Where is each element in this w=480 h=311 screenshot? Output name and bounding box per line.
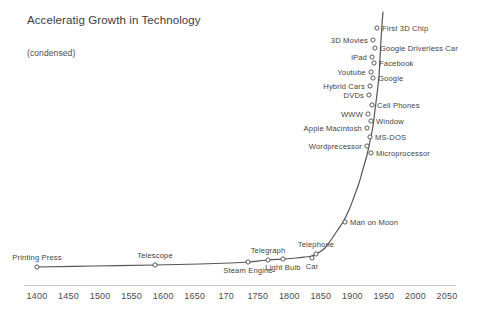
data-point-label: Wordprecessor [309,142,362,151]
data-point-marker[interactable] [314,252,318,256]
data-point-label: First 3D Chip [382,24,428,33]
data-point-label: Hybrid Cars [323,82,365,91]
data-point-label: WWW [341,110,363,119]
data-point-marker[interactable] [266,258,270,262]
x-axis-tick-label: 1550 [121,291,142,301]
data-point-marker[interactable] [371,76,375,80]
data-point-label: Google [378,74,403,83]
data-point-marker[interactable] [368,135,372,139]
x-axis-tick-label: 1600 [153,291,174,301]
data-point-label: Google Driverless Car [380,44,458,53]
data-point-marker[interactable] [366,112,370,116]
data-point-marker[interactable] [370,55,374,59]
x-axis-tick-label: 1400 [27,291,48,301]
x-axis-line [24,285,456,286]
x-axis-tick-label: 1900 [342,291,363,301]
data-point-label: Light Bulb [265,263,300,272]
data-point-marker[interactable] [368,84,372,88]
data-point-label: Car [306,262,319,271]
data-point-marker[interactable] [365,144,369,148]
data-point-marker[interactable] [371,38,375,42]
data-point-label: iPad [351,53,367,62]
data-point-label: 3D Movies [331,36,368,45]
x-axis-tick-label: 1750 [247,291,268,301]
data-point-marker[interactable] [369,70,373,74]
x-axis-tick-label: 1950 [373,291,394,301]
data-point-label: Apple Macintosh [304,124,362,133]
data-point-marker[interactable] [153,263,157,267]
data-point-label: Man on Moon [350,218,398,227]
x-axis-tick-label: 1850 [310,291,331,301]
data-point-label: Youtube [337,68,366,77]
x-axis-tick-label: 1800 [279,291,300,301]
data-point-label: Printing Press [12,253,61,262]
x-axis-tick-label: 1650 [184,291,205,301]
data-point-marker[interactable] [369,151,373,155]
data-point-label: Telephone [298,240,334,249]
data-point-label: Facebook [379,59,414,68]
data-point-marker[interactable] [372,61,376,65]
data-point-marker[interactable] [367,93,371,97]
data-point-marker[interactable] [365,126,369,130]
x-axis-tick-label: 1450 [58,291,79,301]
data-point-marker[interactable] [343,220,347,224]
data-point-marker[interactable] [373,46,377,50]
x-axis-tick-label: 2050 [437,291,458,301]
data-point-marker[interactable] [281,257,285,261]
data-point-marker[interactable] [246,260,250,264]
data-point-label: Telegraph [251,246,286,255]
data-point-marker[interactable] [375,26,379,30]
x-axis-tick-label: 1500 [90,291,111,301]
data-point-label: Microprocessor [376,149,430,158]
data-point-marker[interactable] [369,119,373,123]
data-point-label: Telescope [137,251,173,260]
chart-canvas: Acceleratig Growth in Technology (conden… [0,0,480,311]
data-point-marker[interactable] [370,103,374,107]
data-point-label: Window [376,117,404,126]
data-point-label: Cell Phones [377,101,420,110]
data-point-label: MS-DOS [375,133,406,142]
x-axis-tick-label: 2000 [405,291,426,301]
data-point-marker[interactable] [35,265,39,269]
data-point-label: DVDs [344,91,364,100]
x-axis-tick-label: 170 [218,291,234,301]
growth-curve-line [37,12,383,267]
data-point-marker[interactable] [310,256,314,260]
